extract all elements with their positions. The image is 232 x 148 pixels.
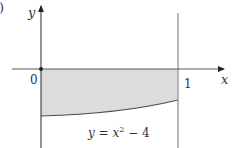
shaded-region xyxy=(41,69,178,116)
x-tick-label-1: 1 xyxy=(184,77,192,91)
origin-point xyxy=(39,67,43,71)
curve-label-prefix: y = x xyxy=(87,126,119,140)
corner-mark: ) xyxy=(0,0,4,15)
origin-label: 0 xyxy=(30,73,38,87)
graph-figure: ) y x 0 1 y = x2 − 4 xyxy=(0,0,232,148)
x-axis-label: x xyxy=(221,72,229,87)
y-axis-label: y xyxy=(27,5,36,20)
curve-label-suffix: − 4 xyxy=(124,126,150,140)
curve-label: y = x2 − 4 xyxy=(87,125,150,140)
